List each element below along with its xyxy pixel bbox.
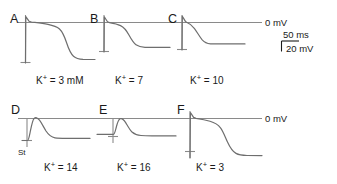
condition-label-c: K+ = 10 [190, 76, 224, 86]
panel-letter-a: A [10, 13, 19, 26]
zero-mv-label-top: 0 mV [265, 18, 287, 28]
condition-value-e: = 16 [128, 162, 151, 173]
zero-mv-label-bottom: 0 mV [265, 114, 287, 124]
panel-letter-c: C [168, 13, 177, 26]
condition-value-a: = 3 mM [47, 75, 83, 86]
panel-d-trace [22, 118, 90, 141]
condition-label-b: K+ = 7 [115, 76, 143, 86]
panel-d-group [22, 118, 90, 147]
panel-letter-e: E [99, 104, 108, 117]
condition-ion-c: K [190, 75, 197, 86]
condition-label-f: K+ = 3 [196, 163, 224, 173]
panel-c-group [177, 15, 245, 50]
stimulus-label: St [18, 149, 26, 157]
condition-label-e: K+ = 16 [117, 163, 151, 173]
scale-bar-voltage-label: 20 mV [286, 44, 313, 54]
condition-value-f: = 3 [207, 162, 224, 173]
scale-bar-time-label: 50 ms [283, 30, 309, 40]
condition-value-c: = 10 [201, 75, 224, 86]
condition-value-b: = 7 [126, 75, 143, 86]
condition-ion-d: K [44, 162, 51, 173]
panel-c-trace [182, 16, 245, 50]
panel-f-trace [190, 113, 262, 159]
panel-a-trace [26, 17, 96, 64]
condition-label-d: K+ = 14 [44, 163, 78, 173]
panel-letter-f: F [177, 104, 185, 117]
panel-letter-b: B [90, 13, 99, 26]
condition-ion-f: K [196, 162, 203, 173]
panel-e-group [97, 119, 176, 144]
panel-letter-d: D [11, 104, 20, 117]
condition-ion-b: K [115, 75, 122, 86]
panel-e-trace [97, 119, 176, 136]
figure-root: A B C D E F 0 mV 0 mV 50 ms 20 mV St K+ … [0, 0, 337, 184]
panel-b-group [99, 15, 170, 52]
condition-ion-e: K [117, 162, 124, 173]
condition-ion-a: K [36, 75, 43, 86]
condition-value-d: = 14 [55, 162, 78, 173]
condition-label-a: K+ = 3 mM [36, 76, 83, 86]
